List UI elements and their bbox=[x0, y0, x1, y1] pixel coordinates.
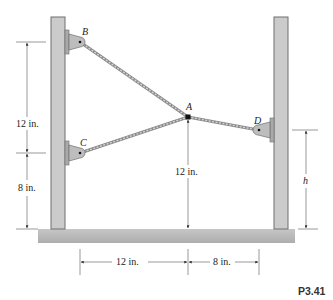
dim-A-height: 12 in. bbox=[175, 166, 198, 177]
figure-id: P3.41 bbox=[298, 285, 326, 297]
right-post bbox=[274, 17, 288, 229]
cable-system-diagram: B C A D 12 in. 8 in. 12 in. h 12 in. bbox=[0, 0, 333, 300]
ground-slab bbox=[38, 229, 295, 243]
dim-left-upper: 12 in. bbox=[16, 118, 39, 129]
label-A: A bbox=[185, 101, 193, 112]
dim-left-lower: 8 in. bbox=[18, 182, 36, 193]
cable-AD bbox=[188, 117, 258, 130]
bottom-dimension bbox=[80, 249, 259, 275]
label-D: D bbox=[253, 115, 262, 126]
cable-AC bbox=[80, 117, 188, 153]
left-post bbox=[51, 17, 65, 229]
left-dimension bbox=[16, 42, 46, 229]
dim-h: h bbox=[303, 175, 308, 186]
dim-bottom-left: 12 in. bbox=[116, 256, 139, 267]
label-C: C bbox=[80, 137, 87, 148]
dim-bottom-right: 8 in. bbox=[213, 256, 231, 267]
label-B: B bbox=[82, 26, 88, 37]
joint-A bbox=[186, 115, 191, 120]
cable-AB bbox=[80, 42, 188, 117]
